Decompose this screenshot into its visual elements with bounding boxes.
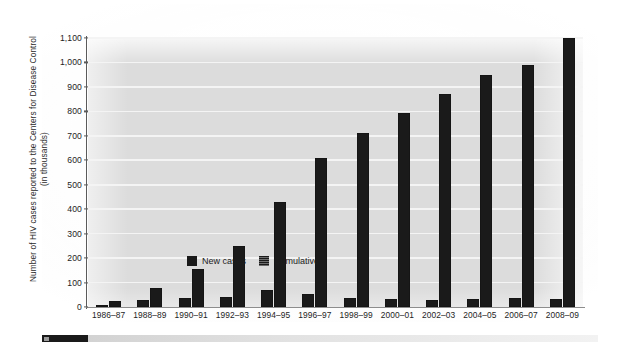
bar-group: [137, 38, 162, 307]
y-tick-label: 800: [67, 106, 88, 116]
bar-new-cases: [385, 299, 397, 307]
bar-group: [385, 38, 410, 307]
bar-new-cases: [426, 300, 438, 307]
bar-cumulative: [480, 75, 492, 307]
x-axis-line: [86, 307, 585, 308]
bar-new-cases: [179, 298, 191, 307]
legend-swatch-new-cases-icon: [187, 256, 197, 266]
bar-group: [344, 38, 369, 307]
x-tick-label: 2000–01: [381, 310, 414, 320]
x-tick-label: 1994–95: [257, 310, 290, 320]
bar-group: [220, 38, 245, 307]
x-tick-label: 2006–07: [504, 310, 537, 320]
x-axis-labels: 1986–871988–891990–911992–931994–951996–…: [88, 310, 583, 320]
y-tick-label: 1,000: [60, 57, 88, 67]
bar-groups: [88, 38, 583, 307]
y-tick-label: 300: [67, 229, 88, 239]
bar-new-cases: [509, 298, 521, 307]
bar-cumulative: [274, 202, 286, 307]
bar-new-cases: [261, 290, 273, 307]
bar-group: [467, 38, 492, 307]
y-tick-label: 100: [67, 278, 88, 288]
y-tick-label: 400: [67, 204, 88, 214]
bar-cumulative: [150, 288, 162, 307]
y-axis-label: Number of HIV cases reported to the Cent…: [28, 34, 50, 284]
legend-item-new-cases: New cases: [187, 256, 246, 266]
bar-new-cases: [467, 299, 479, 307]
bar-cumulative: [563, 38, 575, 307]
y-tick-label: 600: [67, 155, 88, 165]
chart-figure: Number of HIV cases reported to the Cent…: [0, 0, 621, 350]
bar-cumulative: [109, 301, 121, 307]
bar-new-cases: [550, 299, 562, 307]
bar-cumulative: [357, 133, 369, 307]
bar-cumulative: [522, 65, 534, 307]
bar-group: [426, 38, 451, 307]
footer-decoration: [42, 335, 598, 342]
bar-group: [302, 38, 327, 307]
bar-new-cases: [220, 297, 232, 307]
footer-accent-segment: [42, 335, 88, 342]
y-tick-label: 900: [67, 82, 88, 92]
bar-group: [179, 38, 204, 307]
legend-label-new-cases: New cases: [202, 256, 246, 266]
x-tick-label: 2004–05: [463, 310, 496, 320]
legend-item-cumulative: Cumulative: [259, 256, 319, 266]
plot-area: 01002003004005006007008009001,0001,100 N…: [88, 38, 583, 307]
y-tick-label: 500: [67, 180, 88, 190]
y-tick-label: 200: [67, 253, 88, 263]
legend-label-cumulative: Cumulative: [274, 256, 319, 266]
x-tick-label: 1986–87: [92, 310, 125, 320]
bar-group: [550, 38, 575, 307]
legend-swatch-cumulative-icon: [259, 256, 269, 266]
x-tick-label: 2008–09: [546, 310, 579, 320]
bar-group: [96, 38, 121, 307]
y-tick-label: 700: [67, 131, 88, 141]
x-tick-label: 1990–91: [174, 310, 207, 320]
bar-cumulative: [439, 94, 451, 307]
bar-group: [509, 38, 534, 307]
y-tick-label: 1,100: [60, 33, 88, 43]
bar-new-cases: [96, 305, 108, 307]
bar-cumulative: [315, 158, 327, 307]
bar-new-cases: [302, 294, 314, 307]
bar-new-cases: [137, 300, 149, 307]
x-tick-label: 1988–89: [133, 310, 166, 320]
x-tick-label: 1992–93: [216, 310, 249, 320]
y-tick-label: 0: [77, 302, 88, 312]
chart-legend: New cases Cumulative: [187, 256, 319, 266]
x-tick-label: 1996–97: [298, 310, 331, 320]
bar-new-cases: [344, 298, 356, 307]
bar-cumulative: [192, 269, 204, 307]
x-tick-label: 1998–99: [339, 310, 372, 320]
bar-group: [261, 38, 286, 307]
bar-cumulative: [398, 113, 410, 307]
x-tick-label: 2002–03: [422, 310, 455, 320]
